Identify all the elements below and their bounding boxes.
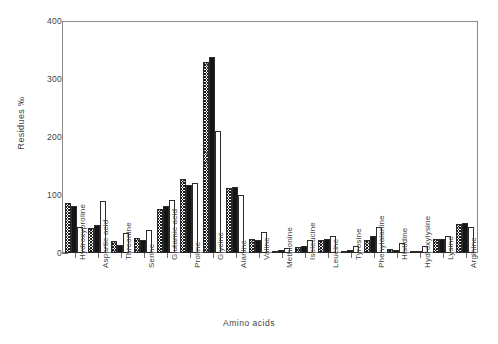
bar — [462, 223, 467, 253]
bar — [255, 240, 260, 253]
bar-group — [88, 22, 105, 253]
y-tick-label: 100 — [26, 190, 62, 200]
bar-group — [111, 22, 128, 253]
bar — [232, 187, 237, 253]
bar-group — [180, 22, 197, 253]
x-tick-mark — [443, 253, 444, 258]
x-category-label: Arginine — [469, 237, 478, 268]
x-tick-mark — [374, 253, 375, 258]
bar-group — [226, 22, 243, 253]
bar — [226, 188, 231, 253]
x-tick-mark — [466, 253, 467, 258]
x-tick-mark — [190, 253, 191, 258]
bar-group — [387, 22, 404, 253]
x-axis-title: Amino acids — [0, 318, 498, 328]
x-tick-mark — [213, 253, 214, 258]
x-category-label: Isoleucine — [308, 222, 317, 260]
chart-figure: Residues ‰ 0100200300400 HydroxyprolineA… — [0, 0, 498, 344]
x-category-label: Threonine — [124, 222, 133, 260]
y-tick-label: 0 — [26, 248, 62, 258]
bar — [341, 251, 346, 253]
bar — [117, 245, 122, 253]
x-tick-mark — [75, 253, 76, 258]
bars-layer — [63, 22, 477, 253]
bar-group — [318, 22, 335, 253]
x-category-label: Hydroxyproline — [78, 204, 87, 260]
bar — [157, 209, 162, 253]
bar — [71, 206, 76, 253]
bar-group — [249, 22, 266, 253]
bar — [186, 185, 191, 253]
bar — [134, 238, 139, 253]
bar — [65, 203, 70, 253]
x-tick-mark — [144, 253, 145, 258]
x-tick-mark — [328, 253, 329, 258]
bar — [433, 239, 438, 253]
bar — [272, 251, 277, 253]
bar-group — [134, 22, 151, 253]
bar — [88, 228, 93, 253]
bar-group — [341, 22, 358, 253]
y-tick-label: 400 — [26, 16, 62, 26]
bar — [301, 246, 306, 254]
bar — [439, 239, 444, 253]
bar — [94, 225, 99, 253]
x-category-label: Phenylalanine — [377, 215, 386, 268]
x-category-label: Valine — [262, 237, 271, 260]
x-category-label: Proline — [193, 242, 202, 268]
x-tick-mark — [305, 253, 306, 258]
bar — [249, 239, 254, 253]
x-category-label: Histidine — [400, 228, 409, 260]
x-tick-mark — [420, 253, 421, 258]
y-axis-title: Residues ‰ — [16, 68, 26, 178]
x-category-label: Glutamic acid — [170, 209, 179, 260]
x-category-label: Aspartic acid — [101, 220, 110, 268]
y-tick-label: 300 — [26, 74, 62, 84]
bar — [324, 239, 329, 253]
bar — [180, 179, 185, 253]
bar — [295, 247, 300, 253]
bar — [387, 249, 392, 253]
x-tick-mark — [259, 253, 260, 258]
x-category-label: Hydroxylysine — [423, 216, 432, 268]
bar — [370, 236, 375, 253]
bar — [364, 240, 369, 253]
bar-group — [272, 22, 289, 253]
x-category-label: Leucine — [331, 239, 340, 268]
x-tick-mark — [167, 253, 168, 258]
x-category-label: Glycine — [216, 232, 225, 260]
x-category-label: Tyrosine — [354, 228, 363, 260]
x-category-label: Serine — [147, 244, 156, 268]
bar — [410, 251, 415, 253]
bar — [163, 206, 168, 253]
bar — [203, 62, 208, 253]
bar — [140, 240, 145, 253]
bar-group — [433, 22, 450, 253]
y-tick-mark — [62, 253, 68, 254]
bar — [111, 241, 116, 253]
bar — [456, 224, 461, 253]
x-category-label: Alanine — [239, 240, 248, 268]
bar — [209, 57, 214, 253]
x-category-label: Methionine — [285, 227, 294, 268]
x-tick-mark — [282, 253, 283, 258]
y-tick-label: 200 — [26, 132, 62, 142]
bar-group — [295, 22, 312, 253]
bar — [318, 240, 323, 253]
x-category-label: Lysine — [446, 236, 455, 260]
x-tick-mark — [98, 253, 99, 258]
x-tick-mark — [351, 253, 352, 258]
x-tick-mark — [236, 253, 237, 258]
bar-group — [203, 22, 220, 253]
bar-group — [456, 22, 473, 253]
x-tick-mark — [121, 253, 122, 258]
x-tick-mark — [397, 253, 398, 258]
